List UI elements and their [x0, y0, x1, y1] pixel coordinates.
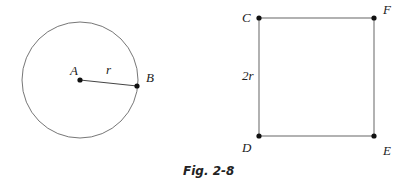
radius-segment — [80, 80, 137, 86]
label-side: 2r — [242, 68, 255, 83]
label-b: B — [146, 70, 154, 85]
label-d: D — [241, 140, 252, 155]
square-figure: C F D E 2r — [241, 2, 392, 158]
point-d — [256, 133, 261, 138]
point-a — [77, 77, 82, 82]
label-e: E — [382, 143, 391, 158]
point-c — [256, 15, 261, 20]
figure-canvas: A r B C F D E 2r Fig. 2-8 — [0, 0, 412, 180]
label-a: A — [69, 63, 78, 78]
circle-figure: A r B — [22, 22, 154, 138]
label-r: r — [106, 62, 112, 77]
label-c: C — [242, 10, 251, 25]
label-f: F — [382, 2, 392, 17]
point-e — [371, 133, 376, 138]
figure-caption: Fig. 2-8 — [183, 164, 234, 178]
point-f — [371, 15, 376, 20]
square-outline — [259, 18, 374, 136]
point-b — [134, 83, 139, 88]
